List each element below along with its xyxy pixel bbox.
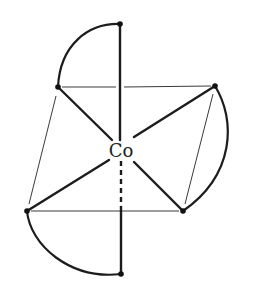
bond-upper-left <box>58 87 112 140</box>
bond-lower-right <box>134 162 183 211</box>
chelate-arc-right <box>183 86 228 211</box>
bond-lower-left <box>27 160 109 211</box>
chelate-arc-bottom-left <box>27 211 121 275</box>
atom-top <box>117 21 123 27</box>
atom-bottom <box>118 271 124 277</box>
edge-left-vertical <box>29 96 56 204</box>
center-atom-label: Co <box>109 140 134 161</box>
chelate-arc-top-left <box>58 24 120 87</box>
edge-upper-horizontal-right <box>124 86 211 87</box>
atom-upper-right <box>212 83 218 89</box>
cobalt-octahedral-complex-diagram: Co <box>0 0 260 299</box>
bond-upper-right <box>134 86 215 137</box>
atom-upper-left <box>55 84 61 90</box>
atom-lower-left <box>24 208 30 214</box>
atom-lower-right <box>180 208 186 214</box>
